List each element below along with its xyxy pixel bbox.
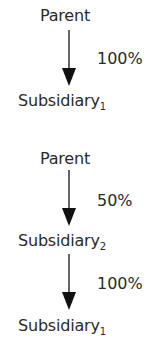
subsidiary-2-label: Subsidiary2 [18,232,106,250]
down-arrow-icon [62,254,76,310]
subsidiary-1-label: Subsidiary1 [18,92,106,110]
down-arrow-icon [62,30,76,86]
ownership-percentage: 100% [97,275,143,293]
subsidiary-1-label: Subsidiary1 [18,317,106,335]
parent-label: Parent [40,150,90,168]
parent-label: Parent [40,7,90,25]
ownership-percentage: 100% [97,50,143,68]
down-arrow-icon [62,170,76,226]
ownership-percentage: 50% [97,192,133,210]
